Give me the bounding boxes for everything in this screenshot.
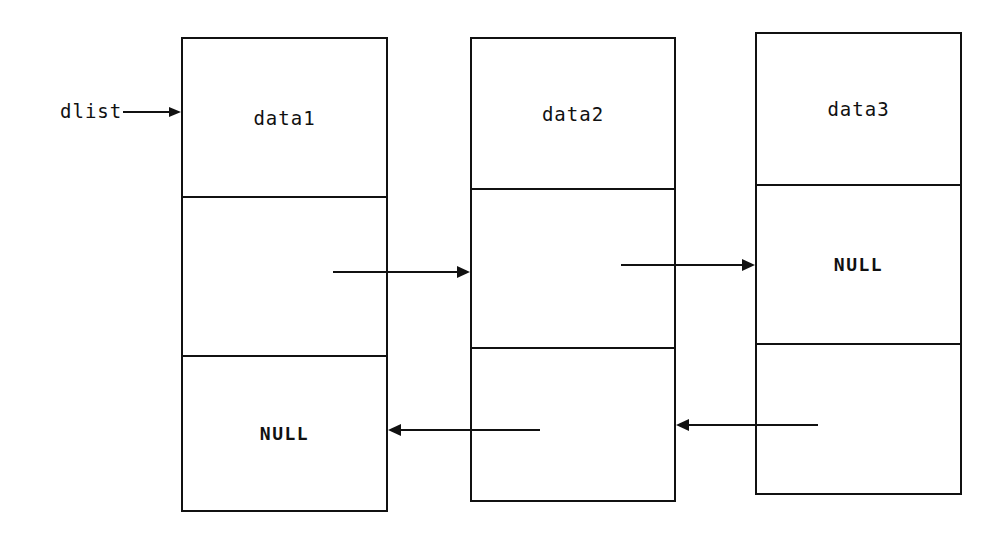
node-2-prev-pointer-cell — [472, 349, 674, 500]
node-1: data1 NULL — [181, 37, 388, 512]
node-3-data-label: data3 — [827, 98, 889, 120]
doubly-linked-list-diagram: dlist data1 NULL data2 data3 NULL — [0, 0, 982, 536]
node-1-data-label: data1 — [253, 107, 315, 129]
node-1-data-cell: data1 — [183, 39, 386, 198]
head-pointer-arrow — [123, 107, 181, 117]
node-2: data2 — [470, 37, 676, 502]
node-2-data-cell: data2 — [472, 39, 674, 190]
node-3-next-pointer-cell: NULL — [757, 186, 960, 345]
node-1-prev-label: NULL — [260, 423, 309, 444]
node-2-next-pointer-cell — [472, 190, 674, 349]
node-1-prev-pointer-cell: NULL — [183, 357, 386, 510]
node-1-next-pointer-cell — [183, 198, 386, 357]
node-3-next-label: NULL — [834, 254, 883, 275]
head-pointer-label: dlist — [60, 100, 122, 122]
node-3-prev-pointer-cell — [757, 345, 960, 493]
node-3: data3 NULL — [755, 32, 962, 495]
node-3-data-cell: data3 — [757, 34, 960, 186]
node-2-data-label: data2 — [542, 103, 604, 125]
